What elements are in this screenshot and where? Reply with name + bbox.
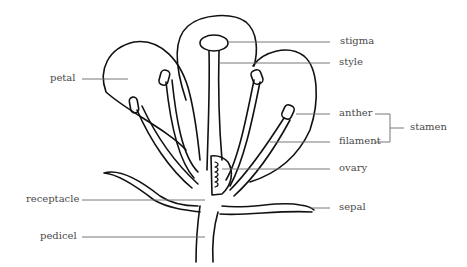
flower-illustration	[0, 0, 467, 267]
style-shape	[207, 51, 222, 170]
label-stamen: stamen	[410, 121, 447, 133]
stigma-shape	[200, 35, 228, 51]
label-petal: petal	[50, 72, 76, 84]
label-filament: filament	[339, 135, 381, 147]
left-outer-anther	[129, 96, 140, 113]
label-stigma: stigma	[340, 35, 374, 47]
left-outer-filament	[137, 106, 198, 188]
label-anther: anther	[339, 107, 373, 119]
right-inner-anther	[250, 69, 264, 86]
center-petal	[177, 16, 256, 100]
right-inner-filament	[226, 80, 260, 186]
right-outer-filament	[230, 118, 290, 196]
right-sepal	[220, 204, 314, 215]
left-petal	[103, 42, 200, 160]
label-sepal: sepal	[339, 201, 366, 213]
flower-diagram: stigma style petal anther filament stame…	[0, 0, 467, 267]
label-pedicel: pedicel	[40, 230, 77, 242]
label-receptacle: receptacle	[26, 193, 79, 205]
label-style: style	[339, 56, 363, 68]
label-ovary: ovary	[339, 162, 367, 174]
right-outer-anther	[281, 104, 296, 121]
left-inner-filament	[166, 80, 198, 178]
left-inner-anther	[158, 69, 171, 86]
pedicel-shape	[196, 206, 218, 262]
right-petal	[250, 50, 316, 182]
ovule-wave	[215, 162, 218, 187]
left-sepal	[104, 172, 200, 212]
